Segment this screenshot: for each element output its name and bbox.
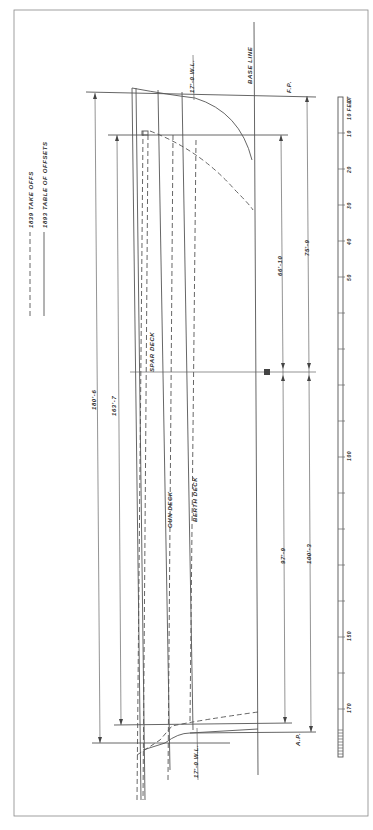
svg-text:40: 40 — [346, 238, 352, 246]
fp-label: F.P. — [286, 81, 292, 93]
svg-text:20: 20 — [346, 166, 352, 174]
gun-deck-line-1839 — [168, 135, 173, 780]
svg-text:163'-7: 163'-7 — [111, 396, 117, 416]
legend-solid-label: 1893 TABLE OF OFFSETS — [42, 141, 48, 228]
wl-fwd-label: 17'-0 W.L. — [189, 60, 195, 93]
svg-text:10 FEET: 10 FEET — [346, 96, 352, 120]
berth-deck-line-1893 — [182, 92, 193, 730]
dim-fwd-midship-outer: 75'-9 — [304, 96, 311, 372]
drawing-frame — [14, 10, 368, 816]
ap-perpendicular-inner — [114, 723, 292, 725]
svg-text:50: 50 — [346, 274, 352, 281]
svg-text:30: 30 — [346, 202, 352, 209]
fp-line — [86, 92, 316, 97]
stem-profile-1839 — [150, 131, 253, 210]
legend: 1839 TAKE OFFS 1893 TABLE OF OFFSETS — [28, 141, 48, 316]
base-line-label: BASE LINE — [247, 46, 253, 84]
legend-dashed-label: 1839 TAKE OFFS — [28, 171, 34, 228]
ship-profile-drawing: 1839 TAKE OFFS 1893 TABLE OF OFFSETS BAS… — [0, 0, 373, 830]
svg-text:100: 100 — [346, 451, 352, 461]
svg-text:170: 170 — [346, 703, 352, 713]
spar-deck-label: SPAR DECK — [149, 332, 155, 372]
svg-text:66'-10: 66'-10 — [277, 256, 283, 276]
dim-mid-aft-inner: 97'-9 — [280, 372, 287, 723]
berth-deck-line-1839 — [190, 140, 196, 722]
wl-aft-label: 17'-0 W.L. — [193, 745, 199, 778]
dim-fwd-midship-inner: 66'-10 — [277, 135, 285, 372]
stem-profile-1893 — [132, 88, 252, 160]
midship-symbol — [264, 369, 270, 375]
spar-deck-line-1893-a — [132, 88, 141, 800]
dim-deck-length: 163'-7 — [111, 135, 123, 725]
scale-bar: 0 10 FEET 10 20 30 40 50 100 150 170 — [338, 96, 352, 757]
gun-deck-line-1893 — [158, 90, 170, 770]
svg-text:150: 150 — [346, 631, 352, 641]
svg-text:97'-9: 97'-9 — [280, 548, 286, 564]
ap-label: A.P. — [295, 733, 301, 747]
dim-overall-length: 180'-6 — [91, 93, 102, 743]
svg-text:10: 10 — [346, 130, 352, 137]
gun-deck-label: GUN DECK — [167, 491, 173, 528]
svg-text:75'-9: 75'-9 — [304, 240, 310, 256]
svg-text:100'-3: 100'-3 — [306, 544, 312, 564]
berth-deck-label: BERTH DECK — [192, 477, 198, 522]
dim-mid-aft-outer: 100'-3 — [306, 372, 313, 732]
svg-text:180'-6: 180'-6 — [91, 390, 97, 410]
